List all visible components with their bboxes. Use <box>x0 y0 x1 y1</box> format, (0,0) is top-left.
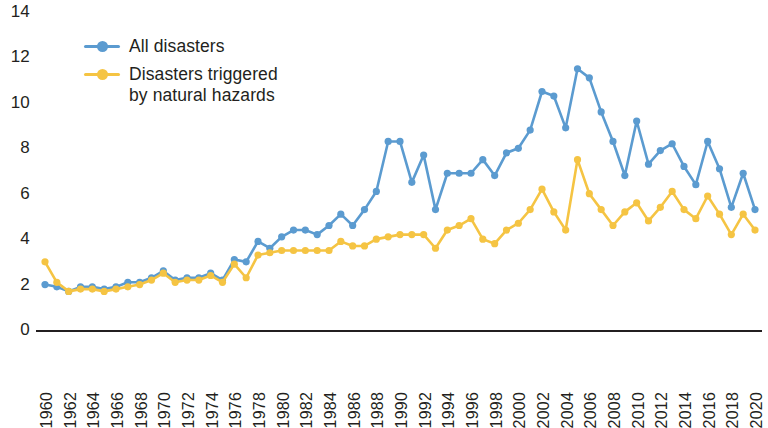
data-point <box>550 208 557 215</box>
data-point <box>41 281 48 288</box>
x-tick-label: 1986 <box>347 392 363 428</box>
data-point <box>621 208 628 215</box>
x-tick-label: 1988 <box>370 392 386 428</box>
data-point <box>243 258 250 265</box>
data-point <box>562 226 569 233</box>
data-point <box>408 179 415 186</box>
data-point <box>254 251 261 258</box>
data-point <box>183 276 190 283</box>
x-tick-label: 2020 <box>749 392 765 428</box>
data-point <box>136 281 143 288</box>
series-line <box>45 160 755 292</box>
x-tick-label: 1968 <box>134 392 150 428</box>
data-point <box>254 238 261 245</box>
x-tick-label: 2012 <box>654 392 670 428</box>
data-point <box>456 222 463 229</box>
data-point <box>704 192 711 199</box>
data-point <box>302 247 309 254</box>
data-point <box>77 286 84 293</box>
x-tick-label: 1970 <box>157 392 173 428</box>
data-point <box>503 149 510 156</box>
data-point <box>716 165 723 172</box>
data-point <box>751 206 758 213</box>
data-point <box>278 247 285 254</box>
legend: All disastersDisasters triggered by natu… <box>84 36 278 106</box>
legend-marker-icon <box>84 65 120 83</box>
data-point <box>314 231 321 238</box>
data-point <box>527 127 534 134</box>
data-point <box>527 206 534 213</box>
data-point <box>231 261 238 268</box>
x-tick-label: 1974 <box>205 392 221 428</box>
data-point <box>396 138 403 145</box>
data-point <box>550 92 557 99</box>
data-point <box>219 279 226 286</box>
data-point <box>65 288 72 295</box>
data-point <box>278 233 285 240</box>
data-point <box>503 226 510 233</box>
data-point <box>243 274 250 281</box>
data-point <box>325 222 332 229</box>
legend-marker-icon <box>84 37 120 55</box>
data-point <box>680 206 687 213</box>
legend-item[interactable]: All disasters <box>84 36 278 57</box>
data-point <box>314 247 321 254</box>
legend-item[interactable]: Disasters triggered by natural hazards <box>84 64 278 106</box>
data-point <box>515 220 522 227</box>
x-tick-label: 1980 <box>276 392 292 428</box>
data-point <box>657 147 664 154</box>
x-tick-label: 1962 <box>63 392 79 428</box>
x-axis-line <box>36 330 762 332</box>
data-point <box>396 231 403 238</box>
data-point <box>325 247 332 254</box>
data-point <box>740 211 747 218</box>
data-point <box>420 152 427 159</box>
data-point <box>148 276 155 283</box>
data-point <box>373 188 380 195</box>
data-point <box>491 172 498 179</box>
data-point <box>598 206 605 213</box>
x-tick-label: 1984 <box>323 392 339 428</box>
data-point <box>704 138 711 145</box>
data-point <box>124 283 131 290</box>
data-point <box>633 199 640 206</box>
data-point <box>586 190 593 197</box>
x-tick-label: 1960 <box>39 392 55 428</box>
x-tick-label: 2002 <box>536 392 552 428</box>
data-point <box>444 226 451 233</box>
data-point <box>740 170 747 177</box>
x-tick-label: 1982 <box>299 392 315 428</box>
x-axis: 1960196219641966196819701972197419761978… <box>0 336 768 394</box>
x-tick-label: 2006 <box>583 392 599 428</box>
x-tick-label: 1996 <box>465 392 481 428</box>
data-point <box>645 161 652 168</box>
data-point <box>385 233 392 240</box>
x-tick-label: 1976 <box>228 392 244 428</box>
data-point <box>385 138 392 145</box>
data-point <box>361 206 368 213</box>
data-point <box>420 231 427 238</box>
x-tick-label: 2010 <box>631 392 647 428</box>
data-point <box>337 238 344 245</box>
data-point <box>41 258 48 265</box>
data-point <box>692 181 699 188</box>
data-point <box>101 288 108 295</box>
data-point <box>112 286 119 293</box>
series-natural-hazards <box>41 156 758 295</box>
data-point <box>444 170 451 177</box>
data-point <box>598 108 605 115</box>
data-point <box>467 215 474 222</box>
data-point <box>266 249 273 256</box>
data-point <box>160 270 167 277</box>
data-point <box>432 245 439 252</box>
data-point <box>195 276 202 283</box>
data-point <box>337 211 344 218</box>
data-point <box>89 286 96 293</box>
data-point <box>373 236 380 243</box>
x-tick-label: 1966 <box>110 392 126 428</box>
data-point <box>621 172 628 179</box>
data-point <box>574 65 581 72</box>
x-tick-label: 2000 <box>512 392 528 428</box>
data-point <box>290 247 297 254</box>
